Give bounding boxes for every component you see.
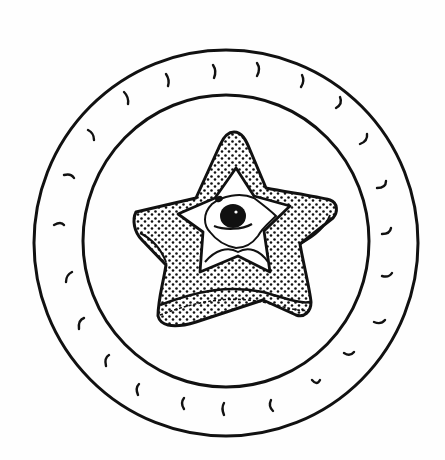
plate-illustration: Star-shaped toast with fried egg on a pl…: [0, 0, 445, 460]
